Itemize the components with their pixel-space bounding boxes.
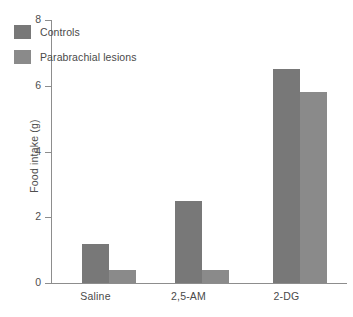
y-tick-mark xyxy=(45,86,51,87)
bar-2-dg-controls xyxy=(273,69,300,283)
x-tick-label-saline: Saline xyxy=(56,290,136,302)
bar-2-dg-parabrachial-lesions xyxy=(300,92,327,283)
bar-saline-controls xyxy=(82,244,109,283)
y-tick-label: 6 xyxy=(21,80,41,91)
chart-legend: ControlsParabrachial lesions xyxy=(14,22,214,72)
legend-label: Controls xyxy=(40,26,80,38)
legend-swatch-icon xyxy=(14,25,31,39)
y-tick-mark xyxy=(45,283,51,284)
y-tick-label: 0 xyxy=(21,277,41,288)
bar-saline-parabrachial-lesions xyxy=(109,270,136,283)
x-axis-line xyxy=(51,283,347,284)
x-tick-label-2-5-am: 2,5-AM xyxy=(149,290,229,302)
y-tick-mark xyxy=(45,217,51,218)
bar-2-5-am-parabrachial-lesions xyxy=(202,270,229,283)
bar-2-5-am-controls xyxy=(175,201,202,283)
x-tick-label-2-dg: 2-DG xyxy=(247,290,327,302)
legend-item: Controls xyxy=(14,22,214,42)
legend-item: Parabrachial lesions xyxy=(14,47,214,67)
y-tick-mark xyxy=(45,152,51,153)
y-tick-label: 4 xyxy=(21,146,41,157)
legend-swatch-icon xyxy=(14,50,31,64)
y-tick-mark xyxy=(45,20,51,21)
y-tick-label: 2 xyxy=(21,211,41,222)
legend-label: Parabrachial lesions xyxy=(40,51,137,63)
bar-chart-figure: Food intake (g) 86420 ControlsParabrachi… xyxy=(0,0,353,317)
